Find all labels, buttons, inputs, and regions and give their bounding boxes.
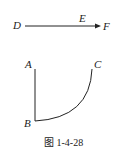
- figure-diagram: D E F A C B 图 1-4-28: [0, 0, 116, 148]
- label-b: B: [24, 117, 31, 129]
- label-f: F: [102, 20, 110, 32]
- label-d: D: [12, 19, 21, 31]
- arc-bc: [35, 69, 92, 121]
- label-c: C: [94, 58, 102, 70]
- label-a: A: [24, 58, 32, 70]
- figure-caption: 图 1-4-28: [44, 137, 83, 148]
- arrowhead-icon: [95, 24, 101, 29]
- label-e: E: [78, 12, 86, 24]
